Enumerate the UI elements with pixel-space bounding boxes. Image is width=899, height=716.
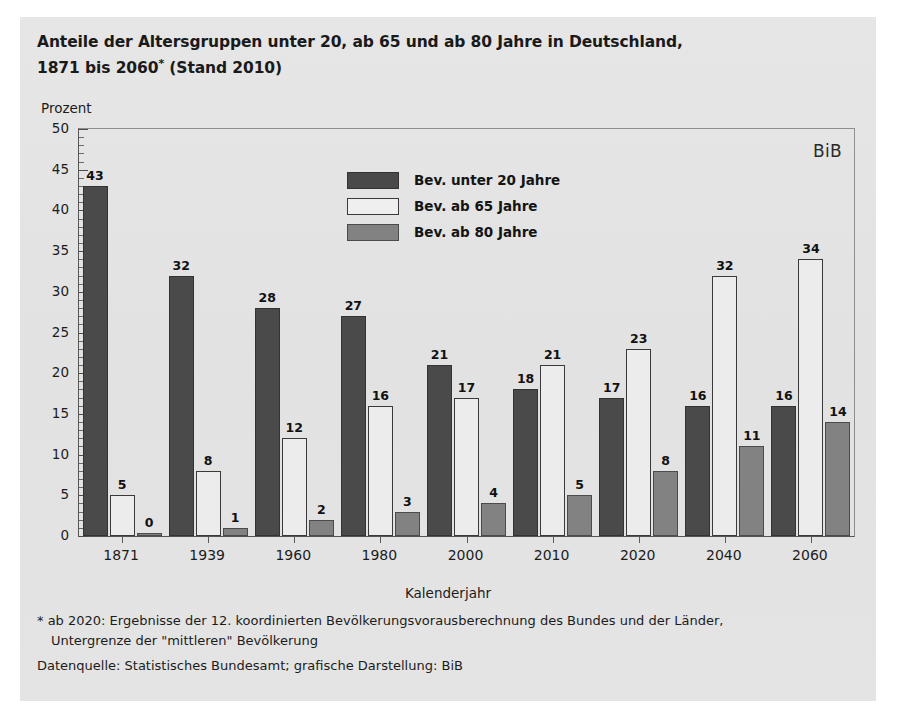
y-axis-tick-40: 40 — [35, 201, 69, 217]
bar-2020-series0[interactable] — [599, 398, 624, 536]
y-tick-mark-minor — [79, 145, 84, 146]
bar-value-label: 1 — [231, 510, 240, 525]
bar-1871-series1[interactable] — [110, 495, 135, 536]
bar-value-label: 4 — [489, 485, 498, 500]
bar-2060-series2[interactable] — [825, 422, 850, 536]
bar-value-label: 43 — [86, 168, 103, 183]
bar-value-label: 17 — [603, 380, 620, 395]
y-axis-tick-35: 35 — [35, 242, 69, 258]
x-axis-label-1980: 1980 — [362, 547, 398, 563]
legend-label-0: Bev. unter 20 Jahre — [414, 172, 560, 188]
x-axis-label-2000: 2000 — [448, 547, 484, 563]
bar-value-label: 23 — [630, 331, 647, 346]
bar-1960-series2[interactable] — [309, 520, 334, 536]
y-axis-tick-10: 10 — [35, 446, 69, 462]
bar-2020-series1[interactable] — [626, 349, 651, 536]
x-tick-mark — [553, 536, 554, 543]
y-tick-mark-minor — [79, 137, 84, 138]
bar-value-label: 5 — [118, 477, 127, 492]
bar-value-label: 12 — [286, 420, 303, 435]
legend: Bev. unter 20 Jahre Bev. ab 65 Jahre Bev… — [347, 168, 560, 246]
data-source: Datenquelle: Statistisches Bundesamt; gr… — [37, 656, 867, 676]
bar-2010-series2[interactable] — [567, 495, 592, 536]
bar-1980-series1[interactable] — [368, 406, 393, 536]
x-tick-mark — [811, 536, 812, 543]
bar-1871-series2[interactable] — [137, 533, 162, 536]
bar-value-label: 8 — [661, 453, 670, 468]
bar-value-label: 16 — [775, 388, 792, 403]
title-line-2-pre: 1871 bis 2060 — [37, 59, 158, 77]
bar-2000-series1[interactable] — [454, 398, 479, 536]
title-line-2-post: (Stand 2010) — [164, 59, 282, 77]
bar-1871-series0[interactable] — [83, 186, 108, 536]
legend-label-2: Bev. ab 80 Jahre — [414, 224, 538, 240]
x-tick-mark — [467, 536, 468, 543]
x-axis-label-2010: 2010 — [534, 547, 570, 563]
legend-item-1: Bev. ab 65 Jahre — [347, 194, 560, 218]
bar-1960-series1[interactable] — [282, 438, 307, 536]
x-tick-mark — [122, 536, 123, 543]
x-axis-label-2040: 2040 — [706, 547, 742, 563]
y-axis-tick-25: 25 — [35, 324, 69, 340]
bar-1939-series1[interactable] — [196, 471, 221, 536]
bar-2020-series2[interactable] — [653, 471, 678, 536]
bar-2060-series1[interactable] — [798, 259, 823, 536]
y-axis-tick-45: 45 — [35, 161, 69, 177]
bar-2000-series0[interactable] — [427, 365, 452, 536]
y-axis-title: Prozent — [41, 100, 92, 116]
bar-1939-series0[interactable] — [169, 276, 194, 536]
y-axis-tick-20: 20 — [35, 364, 69, 380]
bar-1960-series0[interactable] — [255, 308, 280, 536]
bar-1980-series2[interactable] — [395, 512, 420, 536]
x-axis-title: Kalenderjahr — [20, 585, 876, 601]
x-tick-mark — [639, 536, 640, 543]
bar-2010-series1[interactable] — [540, 365, 565, 536]
chart-panel: Anteile der Altersgruppen unter 20, ab 6… — [20, 17, 876, 701]
y-tick-mark-minor — [79, 162, 84, 163]
page-title: Anteile der Altersgruppen unter 20, ab 6… — [37, 32, 857, 79]
y-axis-tick-0: 0 — [35, 527, 69, 543]
y-axis-tick-50: 50 — [35, 120, 69, 136]
bar-2040-series0[interactable] — [685, 406, 710, 536]
bar-value-label: 0 — [145, 515, 154, 530]
bar-value-label: 34 — [802, 241, 819, 256]
bar-value-label: 27 — [345, 298, 362, 313]
bib-logo: BiB — [813, 141, 842, 161]
footnote-2: Untergrenze der "mittleren" Bevölkerung — [37, 631, 867, 651]
bar-value-label: 2 — [317, 502, 326, 517]
y-tick-mark-minor — [79, 178, 84, 179]
x-axis-label-1871: 1871 — [103, 547, 139, 563]
bar-2040-series2[interactable] — [739, 446, 764, 536]
x-tick-mark — [380, 536, 381, 543]
bar-value-label: 17 — [458, 380, 475, 395]
bar-1980-series0[interactable] — [341, 316, 366, 536]
x-tick-mark — [725, 536, 726, 543]
bar-2000-series2[interactable] — [481, 503, 506, 536]
bar-value-label: 18 — [517, 371, 534, 386]
x-axis-label-1939: 1939 — [189, 547, 225, 563]
bar-value-label: 16 — [689, 388, 706, 403]
legend-item-2: Bev. ab 80 Jahre — [347, 220, 560, 244]
legend-swatch-under20-icon — [347, 172, 399, 189]
bar-value-label: 14 — [829, 404, 846, 419]
bar-value-label: 32 — [172, 258, 189, 273]
x-tick-mark — [208, 536, 209, 543]
bar-value-label: 32 — [716, 258, 733, 273]
legend-swatch-over80-icon — [347, 224, 399, 241]
bar-value-label: 5 — [575, 477, 584, 492]
bar-value-label: 21 — [544, 347, 561, 362]
footnotes: * ab 2020: Ergebnisse der 12. koordinier… — [37, 611, 867, 676]
x-tick-mark — [294, 536, 295, 543]
bar-2040-series1[interactable] — [712, 276, 737, 536]
plot-area: 0510152025303540455043503281281222716321… — [78, 128, 855, 537]
bar-2010-series0[interactable] — [513, 389, 538, 536]
y-axis-tick-30: 30 — [35, 283, 69, 299]
title-line-1: Anteile der Altersgruppen unter 20, ab 6… — [37, 33, 683, 51]
y-tick-mark-major — [79, 536, 88, 537]
y-tick-mark-minor — [79, 153, 84, 154]
x-axis-label-2020: 2020 — [620, 547, 656, 563]
bar-value-label: 8 — [204, 453, 213, 468]
bar-2060-series0[interactable] — [771, 406, 796, 536]
bar-1939-series2[interactable] — [223, 528, 248, 536]
legend-item-0: Bev. unter 20 Jahre — [347, 168, 560, 192]
